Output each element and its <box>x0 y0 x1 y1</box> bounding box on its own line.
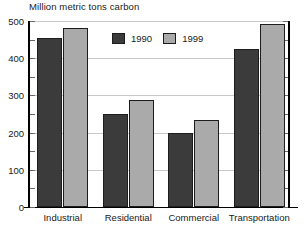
legend-label-1999: 1999 <box>182 33 203 44</box>
bar-industrial-1999 <box>63 28 88 207</box>
y-axis-label-500: 500 <box>8 16 24 27</box>
tick-left-250 <box>30 114 35 115</box>
chart-legend: 19901999 <box>112 33 203 44</box>
tick-right-0 <box>283 207 288 208</box>
tick-left-150 <box>30 151 35 152</box>
right-axis-line <box>288 21 290 207</box>
bar-residential-1990 <box>103 114 128 207</box>
tick-left-300 <box>30 95 35 96</box>
tick-left-0 <box>30 207 35 208</box>
y-axis-label-100: 100 <box>8 164 24 175</box>
bar-commercial-1999 <box>194 120 219 207</box>
bar-chart: Million metric tons carbon 0100200300400… <box>0 0 307 235</box>
tick-left-100 <box>30 170 35 171</box>
y-axis-label-400: 400 <box>8 53 24 64</box>
bar-residential-1999 <box>129 100 154 207</box>
tick-left-350 <box>30 77 35 78</box>
x-axis-label-residential: Residential <box>105 212 152 223</box>
legend-item-1999: 1999 <box>163 33 203 44</box>
x-axis-label-transportation: Transportation <box>229 212 290 223</box>
tick-left-400 <box>30 58 35 59</box>
tick-right-500 <box>283 21 288 22</box>
bar-transportation-1990 <box>234 49 259 207</box>
bar-industrial-1990 <box>37 38 62 207</box>
y-axis-label-200: 200 <box>8 127 24 138</box>
tick-left-500 <box>30 21 35 22</box>
y-axis-label-0: 0 <box>19 202 24 213</box>
gridline-500 <box>30 21 288 22</box>
y-axis-label-300: 300 <box>8 90 24 101</box>
x-axis-label-commercial: Commercial <box>168 212 219 223</box>
tick-left-450 <box>30 40 35 41</box>
x-axis-label-industrial: Industrial <box>43 212 82 223</box>
chart-title: Million metric tons carbon <box>29 1 139 12</box>
tick-left-200 <box>30 133 35 134</box>
legend-label-1990: 1990 <box>131 33 152 44</box>
legend-item-1990: 1990 <box>112 33 152 44</box>
bar-commercial-1990 <box>168 133 193 207</box>
legend-swatch-1999 <box>163 33 176 44</box>
bar-transportation-1999 <box>260 24 285 207</box>
legend-swatch-1990 <box>112 33 125 44</box>
tick-left-50 <box>30 188 35 189</box>
plot-area: 0100200300400500 <box>28 21 290 207</box>
